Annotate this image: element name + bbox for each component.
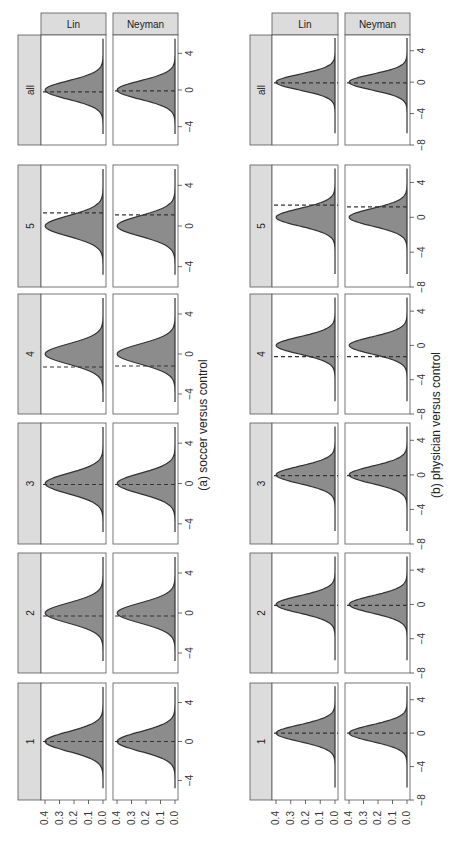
- x-axis-tick-label: −8: [416, 538, 427, 550]
- y-axis-tick-label: 0.1: [155, 811, 166, 825]
- caption-soccer: (a) soccer versus control: [196, 359, 210, 490]
- row-strip-label: 1: [256, 738, 267, 744]
- x-axis-tick-label: 4: [184, 699, 195, 705]
- y-axis-tick-label: 0.0: [97, 811, 108, 825]
- y-axis-tick-label: 0.2: [372, 811, 383, 825]
- facet-panel: [272, 35, 338, 145]
- row-strip-label: 4: [256, 351, 267, 357]
- x-axis-tick-label: 4: [416, 696, 427, 702]
- facet-panel: [41, 553, 106, 673]
- x-axis-tick-label: 0: [184, 351, 195, 357]
- x-axis-tick-label: 0: [416, 730, 427, 736]
- facet-panel: [345, 423, 410, 544]
- x-axis-tick-label: −4: [184, 388, 195, 400]
- facet-panel: [272, 423, 338, 544]
- facet-panel: [41, 294, 106, 414]
- x-axis-tick-label: 0: [184, 87, 195, 93]
- facet-panel: [113, 423, 178, 544]
- y-axis-tick-label: 0.0: [401, 811, 412, 825]
- facet-panel: [113, 553, 178, 673]
- x-axis-tick-label: 0: [416, 214, 427, 220]
- row-strip-label: 4: [25, 351, 36, 357]
- y-axis-tick-label: 0.3: [54, 811, 65, 825]
- x-axis-tick-label: 0: [184, 610, 195, 616]
- row-strip-label: 3: [256, 480, 267, 486]
- row-strip-label: all: [25, 85, 36, 95]
- x-axis-tick-label: 0: [184, 738, 195, 744]
- x-axis-tick-label: −4: [416, 374, 427, 386]
- x-axis-tick-label: 4: [416, 437, 427, 443]
- facet-panel: [41, 683, 106, 800]
- row-strip-label: 1: [25, 738, 36, 744]
- y-axis-tick-label: 0.2: [300, 811, 311, 825]
- y-axis-tick-label: 0.3: [285, 811, 296, 825]
- column-header-label: Neyman: [359, 19, 396, 30]
- facet-panel: [41, 35, 106, 145]
- x-axis-tick-label: −8: [416, 408, 427, 420]
- y-axis-tick-label: 0.0: [329, 811, 340, 825]
- facet-panel: [345, 165, 410, 287]
- row-strip-label: 3: [25, 480, 36, 486]
- x-axis-tick-label: 4: [416, 567, 427, 573]
- x-axis-tick-label: 4: [416, 308, 427, 314]
- row-strip-label: 5: [256, 223, 267, 229]
- panel-group-soccer: LinNeymanall−4045−4044−4043−4042−4041−40…: [18, 13, 210, 825]
- x-axis-tick-label: −8: [416, 794, 427, 806]
- facet-panel: [113, 294, 178, 414]
- facet-panel: [113, 35, 178, 145]
- x-axis-tick-label: 4: [184, 311, 195, 317]
- x-axis-tick-label: 4: [416, 47, 427, 53]
- x-axis-tick-label: 0: [416, 601, 427, 607]
- x-axis-tick-label: −4: [184, 261, 195, 273]
- facet-panel: [345, 294, 410, 414]
- faceted-density-figure: LinNeymanall−4045−4044−4043−4042−4041−40…: [0, 0, 475, 852]
- x-axis-tick-label: −4: [416, 503, 427, 515]
- facet-panel: [272, 553, 338, 673]
- x-axis-tick-label: −4: [416, 633, 427, 645]
- x-axis-tick-label: −8: [416, 139, 427, 151]
- x-axis-tick-label: −4: [184, 518, 195, 530]
- y-axis-tick-label: 0.0: [169, 811, 180, 825]
- x-axis-tick-label: 0: [416, 342, 427, 348]
- facet-panel: [345, 683, 410, 800]
- facet-panel: [272, 165, 338, 287]
- y-axis-tick-label: 0.3: [358, 811, 369, 825]
- facet-panel: [272, 294, 338, 414]
- panel-group-physician: LinNeymanall−8−4045−8−4044−8−4043−8−4042…: [250, 13, 443, 825]
- x-axis-tick-label: −4: [184, 647, 195, 659]
- x-axis-tick-label: 4: [184, 570, 195, 576]
- column-header-label: Lin: [298, 19, 311, 30]
- facet-panel: [345, 553, 410, 673]
- y-axis-tick-label: 0.4: [111, 811, 122, 825]
- x-axis-tick-label: −4: [416, 107, 427, 119]
- x-axis-tick-label: −4: [416, 246, 427, 258]
- x-axis-tick-label: −4: [416, 760, 427, 772]
- row-strip-label: 2: [25, 610, 36, 616]
- row-strip-label: 2: [256, 610, 267, 616]
- y-axis-tick-label: 0.4: [270, 811, 281, 825]
- x-axis-tick-label: 4: [184, 440, 195, 446]
- x-axis-tick-label: 0: [184, 223, 195, 229]
- x-axis-tick-label: 0: [416, 79, 427, 85]
- x-axis-tick-label: 4: [416, 179, 427, 185]
- x-axis-tick-label: 0: [416, 472, 427, 478]
- y-axis-tick-label: 0.1: [83, 811, 94, 825]
- x-axis-tick-label: −4: [184, 121, 195, 133]
- facet-panel: [345, 35, 410, 145]
- facet-panel: [113, 683, 178, 800]
- y-axis-tick-label: 0.1: [314, 811, 325, 825]
- x-axis-tick-label: 4: [184, 182, 195, 188]
- y-axis-tick-label: 0.4: [39, 811, 50, 825]
- facet-panel: [272, 683, 338, 800]
- row-strip-label: 5: [25, 223, 36, 229]
- facet-panel: [113, 165, 178, 287]
- facet-panel: [41, 165, 106, 287]
- y-axis-tick-label: 0.2: [140, 811, 151, 825]
- x-axis-tick-label: −4: [184, 774, 195, 786]
- column-header-label: Lin: [67, 19, 80, 30]
- y-axis-tick-label: 0.2: [68, 811, 79, 825]
- column-header-label: Neyman: [127, 19, 164, 30]
- x-axis-tick-label: 0: [184, 480, 195, 486]
- x-axis-tick-label: −8: [416, 281, 427, 293]
- y-axis-tick-label: 0.3: [126, 811, 137, 825]
